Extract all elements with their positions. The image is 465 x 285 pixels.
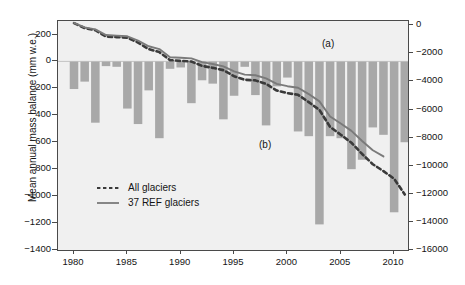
y-tick-left-1 <box>52 60 57 61</box>
y-ticklabel-right-8: −16000 <box>416 244 462 254</box>
x-ticklabel-0: 1980 <box>53 257 93 267</box>
x-tick-1 <box>126 250 127 254</box>
bar-1986 <box>134 61 143 124</box>
figure-glacier-mass-balance: 2000−200−400−600−800−1000−1200−14000−200… <box>0 0 465 285</box>
bar-1995 <box>230 61 239 95</box>
legend-item-all-glaciers: All glaciers <box>96 180 199 195</box>
y-ticklabel-right-0: 0 <box>416 19 462 29</box>
x-ticklabel-1: 1985 <box>106 257 146 267</box>
x-ticklabel-6: 2010 <box>373 257 413 267</box>
x-tick-3 <box>233 250 234 254</box>
bar-1981 <box>80 61 89 81</box>
bar-2000 <box>283 61 292 77</box>
legend-label-all-glaciers: All glaciers <box>128 182 176 193</box>
y-axis-left-title: Mean annual mass balance (mm w.e.) <box>27 33 38 202</box>
y-tick-left-3 <box>52 114 57 115</box>
x-tick-6 <box>393 250 394 254</box>
y-ticklabel-right-7: −14000 <box>416 216 462 226</box>
legend-key-dashed-icon <box>96 183 120 193</box>
bar-1983 <box>102 61 111 66</box>
y-tick-left-4 <box>52 141 57 142</box>
y-ticklabel-left-8: −1400 <box>9 244 51 254</box>
x-tick-4 <box>286 250 287 254</box>
y-ticklabel-right-2: −4000 <box>416 75 462 85</box>
bar-1988 <box>155 61 164 138</box>
panel-label-a: (a) <box>322 38 334 49</box>
y-tick-right-6 <box>408 193 413 194</box>
bar-1998 <box>262 61 271 125</box>
y-ticklabel-right-1: −2000 <box>416 47 462 57</box>
bar-1984 <box>112 61 121 66</box>
bar-2003 <box>315 61 324 224</box>
bar-1997 <box>251 61 260 95</box>
bar-2010 <box>390 61 399 212</box>
y-tick-left-5 <box>52 168 57 169</box>
legend-label-ref-glaciers: 37 REF glaciers <box>128 197 199 208</box>
bar-1987 <box>144 61 153 90</box>
y-tick-right-4 <box>408 137 413 138</box>
y-tick-right-7 <box>408 221 413 222</box>
y-tick-left-8 <box>52 249 57 250</box>
y-ticklabel-right-3: −6000 <box>416 104 462 114</box>
y-tick-right-5 <box>408 165 413 166</box>
y-tick-right-8 <box>408 249 413 250</box>
bar-1985 <box>123 61 132 108</box>
x-ticklabel-5: 2005 <box>320 257 360 267</box>
x-ticklabel-3: 1995 <box>213 257 253 267</box>
bar-2009 <box>379 61 388 134</box>
panel-label-b: (b) <box>259 139 271 150</box>
legend-key-solid-icon <box>96 198 120 208</box>
bar-1989 <box>166 61 175 68</box>
legend-item-ref-glaciers: 37 REF glaciers <box>96 195 199 210</box>
bar-1982 <box>91 61 100 122</box>
bar-2007 <box>358 61 367 159</box>
y-tick-right-2 <box>408 80 413 81</box>
y-tick-left-2 <box>52 87 57 88</box>
plot-area <box>57 20 409 251</box>
x-tick-5 <box>340 250 341 254</box>
y-tick-right-1 <box>408 52 413 53</box>
bar-2006 <box>347 61 356 169</box>
chart-legend: All glaciers 37 REF glaciers <box>96 180 199 210</box>
plot-canvas <box>58 21 408 250</box>
chart-svg <box>58 21 408 250</box>
y-ticklabel-left-7: −1200 <box>9 217 51 227</box>
bar-2008 <box>369 61 378 127</box>
y-ticklabel-right-5: −10000 <box>416 160 462 170</box>
y-tick-right-3 <box>408 109 413 110</box>
y-ticklabel-right-6: −12000 <box>416 188 462 198</box>
y-ticklabel-right-4: −8000 <box>416 132 462 142</box>
y-tick-left-0 <box>52 34 57 35</box>
bar-2011 <box>401 61 408 142</box>
x-ticklabel-2: 1990 <box>160 257 200 267</box>
bar-1996 <box>240 61 249 66</box>
x-tick-2 <box>180 250 181 254</box>
y-tick-left-6 <box>52 195 57 196</box>
x-tick-0 <box>73 250 74 254</box>
bar-1980 <box>70 61 79 89</box>
bar-1991 <box>187 61 196 103</box>
x-ticklabel-4: 2000 <box>266 257 306 267</box>
y-tick-left-7 <box>52 222 57 223</box>
y-tick-right-0 <box>408 24 413 25</box>
